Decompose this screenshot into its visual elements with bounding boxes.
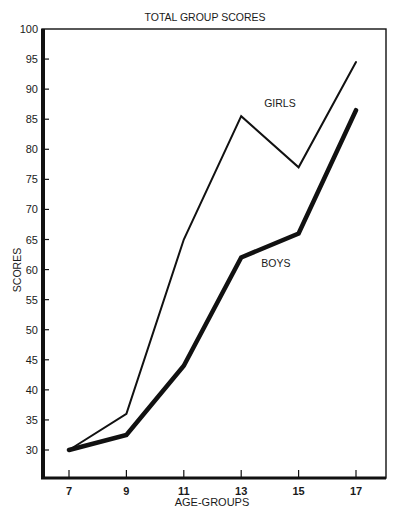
y-tick-label: 80 [26,143,38,155]
series-label-girls: GIRLS [264,97,296,109]
plot-frame [41,29,386,479]
x-axis-label: AGE-GROUPS [175,496,250,508]
y-tick-label: 100 [20,23,38,35]
series-lines [69,62,356,450]
series-line-boys [69,110,356,450]
series-line-girls [69,62,356,450]
y-tick-label: 45 [26,354,38,366]
y-tick-label: 90 [26,83,38,95]
y-tick-label: 65 [26,234,38,246]
y-tick-label: 60 [26,264,38,276]
y-tick-label: 95 [26,53,38,65]
x-tick-label: 7 [66,485,72,497]
x-axis-ticks: 7911131517 [66,470,362,497]
x-tick-label: 15 [292,485,304,497]
line-chart: TOTAL GROUP SCORES 303540455055606570758… [0,0,400,521]
x-tick-label: 17 [350,485,362,497]
y-axis-label: SCORES [11,248,23,292]
y-tick-label: 50 [26,324,38,336]
y-tick-label: 35 [26,414,38,426]
y-tick-label: 40 [26,384,38,396]
y-tick-label: 55 [26,294,38,306]
y-tick-label: 85 [26,113,38,125]
y-tick-label: 75 [26,173,38,185]
series-label-boys: BOYS [261,257,290,269]
y-tick-label: 70 [26,203,38,215]
y-tick-label: 30 [26,444,38,456]
chart-title: TOTAL GROUP SCORES [145,11,266,23]
x-tick-label: 9 [123,485,129,497]
